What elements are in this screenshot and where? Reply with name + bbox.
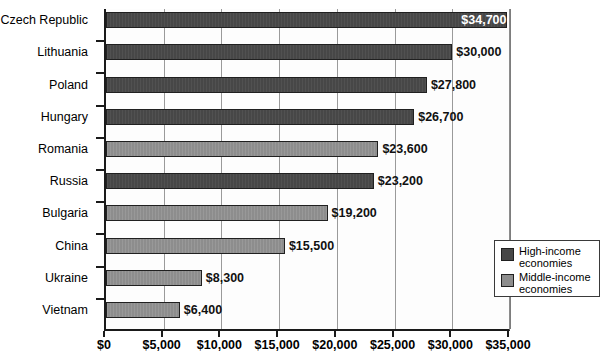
x-axis-label: $5,000 xyxy=(143,338,181,352)
x-axis-label: $25,000 xyxy=(370,338,415,352)
legend-item[interactable]: High-income economies xyxy=(501,246,599,269)
x-axis-tick xyxy=(103,331,105,337)
y-axis-label-vietnam: Vietnam xyxy=(42,302,88,318)
y-axis-label-czech-republic: Czech Republic xyxy=(0,12,88,28)
bar-china[interactable] xyxy=(106,238,285,254)
bar-romania[interactable] xyxy=(106,141,378,157)
bar-hungary[interactable] xyxy=(106,109,414,125)
legend-label: High-income economies xyxy=(519,246,581,269)
bar-value-label: $23,200 xyxy=(374,173,423,189)
y-axis-label-lithuania: Lithuania xyxy=(37,44,88,60)
bar-row[interactable]: $19,200 xyxy=(106,205,509,221)
legend: High-income economiesMiddle-income econo… xyxy=(494,240,600,297)
bar-row[interactable]: $23,200 xyxy=(106,173,509,189)
y-axis-tick xyxy=(96,201,104,203)
y-axis-label-poland: Poland xyxy=(49,77,88,93)
bar-ukraine[interactable] xyxy=(106,270,202,286)
bar-value-label: $26,700 xyxy=(414,109,463,125)
bar-poland[interactable] xyxy=(106,77,427,93)
y-axis-label-bulgaria: Bulgaria xyxy=(42,205,88,221)
y-axis-tick xyxy=(96,266,104,268)
bar-row[interactable]: $34,700 xyxy=(106,12,509,28)
x-axis-label: $35,000 xyxy=(485,338,530,352)
legend-swatch-icon xyxy=(501,248,514,261)
y-axis-label-romania: Romania xyxy=(38,141,88,157)
y-axis-tick xyxy=(96,105,104,107)
y-axis-tick xyxy=(96,298,104,300)
bar-row[interactable]: $6,400 xyxy=(106,302,509,318)
bar-value-label: $8,300 xyxy=(202,270,244,286)
x-axis-ticks xyxy=(0,331,535,338)
x-axis-label: $30,000 xyxy=(428,338,473,352)
bar-value-label: $19,200 xyxy=(328,205,377,221)
bar-russia[interactable] xyxy=(106,173,374,189)
x-axis-tick xyxy=(449,331,451,337)
plot-area: $34,700$30,000$27,800$26,700$23,600$23,2… xyxy=(104,9,510,331)
x-axis-label: $0 xyxy=(97,338,111,352)
y-axis-tick xyxy=(96,72,104,74)
bar-lithuania[interactable] xyxy=(106,44,452,60)
x-axis-label: $15,000 xyxy=(255,338,300,352)
x-axis-label: $10,000 xyxy=(197,338,242,352)
y-axis-label-china: China xyxy=(55,238,88,254)
bar-row[interactable]: $15,500 xyxy=(106,238,509,254)
bar-row[interactable]: $8,300 xyxy=(106,270,509,286)
x-axis-tick xyxy=(507,331,509,337)
bar-row[interactable]: $23,600 xyxy=(106,141,509,157)
bar-row[interactable]: $26,700 xyxy=(106,109,509,125)
legend-swatch-icon xyxy=(501,274,514,287)
bar-value-label: $34,700 xyxy=(106,12,512,28)
y-axis-label-russia: Russia xyxy=(50,173,88,189)
bar-value-label: $27,800 xyxy=(427,77,476,93)
y-axis-label-ukraine: Ukraine xyxy=(45,270,88,286)
x-axis-tick xyxy=(218,331,220,337)
bar-value-label: $15,500 xyxy=(285,238,334,254)
bar-value-label: $30,000 xyxy=(452,44,501,60)
x-axis-tick xyxy=(161,331,163,337)
bar-row[interactable]: $30,000 xyxy=(106,44,509,60)
y-axis-labels: Czech RepublicLithuaniaPolandHungaryRoma… xyxy=(0,9,98,331)
bar-row[interactable]: $27,800 xyxy=(106,77,509,93)
x-axis-label: $20,000 xyxy=(312,338,357,352)
bar-value-label: $23,600 xyxy=(378,141,427,157)
legend-item[interactable]: Middle-income economies xyxy=(501,272,599,295)
x-axis-labels: $0$5,000$10,000$15,000$20,000$25,000$30,… xyxy=(0,338,535,358)
bar-rows: $34,700$30,000$27,800$26,700$23,600$23,2… xyxy=(106,9,509,329)
y-axis-tick xyxy=(96,137,104,139)
x-axis-tick xyxy=(276,331,278,337)
bar-bulgaria[interactable] xyxy=(106,205,328,221)
y-axis-tick xyxy=(96,169,104,171)
y-axis-label-hungary: Hungary xyxy=(41,109,88,125)
y-axis-tick xyxy=(96,233,104,235)
x-axis-tick xyxy=(392,331,394,337)
bar-vietnam[interactable] xyxy=(106,302,180,318)
bar-value-label: $6,400 xyxy=(180,302,222,318)
x-axis-tick xyxy=(334,331,336,337)
y-axis-tick xyxy=(96,40,104,42)
legend-label: Middle-income economies xyxy=(519,272,591,295)
